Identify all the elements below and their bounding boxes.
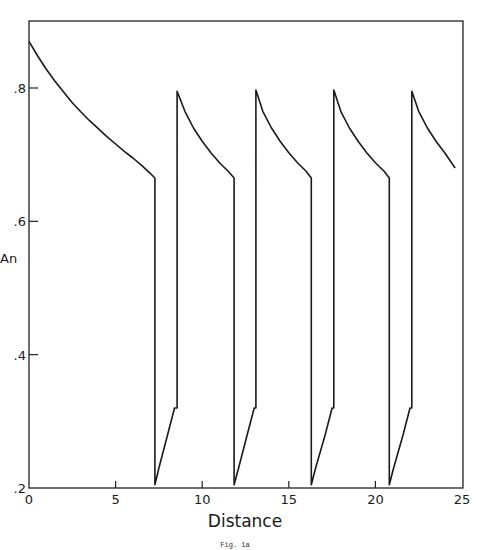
data-line	[29, 41, 455, 484]
x-tick-label: 0	[25, 492, 33, 507]
x-tick-label: 25	[454, 492, 471, 507]
x-axis-ticks: 0510152025	[25, 481, 470, 507]
x-tick-label: 5	[111, 492, 119, 507]
y-tick-label: .4	[14, 348, 26, 363]
y-tick-label: .8	[14, 81, 26, 96]
x-axis-title: Distance	[208, 511, 282, 531]
y-tick-label: .6	[14, 214, 26, 229]
chart: 0510152025 .2.4.6.8 Distance An Fig. 1a	[0, 0, 484, 550]
y-tick-label: .2	[14, 481, 26, 496]
x-tick-label: 10	[194, 492, 211, 507]
y-axis-title: An	[0, 251, 17, 266]
y-axis-ticks: .2.4.6.8	[14, 81, 38, 496]
figure-caption: Fig. 1a	[220, 541, 249, 549]
x-tick-label: 15	[281, 492, 298, 507]
plot-frame	[29, 21, 463, 488]
x-tick-label: 20	[367, 492, 384, 507]
